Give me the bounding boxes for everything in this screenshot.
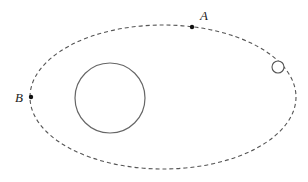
- point-a-marker: [190, 25, 194, 29]
- point-b-marker: [29, 95, 33, 99]
- point-a-label: A: [199, 8, 208, 23]
- point-b-label: B: [15, 90, 23, 105]
- orbit-ellipse: [30, 25, 296, 169]
- central-body: [75, 63, 145, 133]
- satellite: [272, 61, 284, 73]
- orbit-diagram: A B: [0, 0, 308, 182]
